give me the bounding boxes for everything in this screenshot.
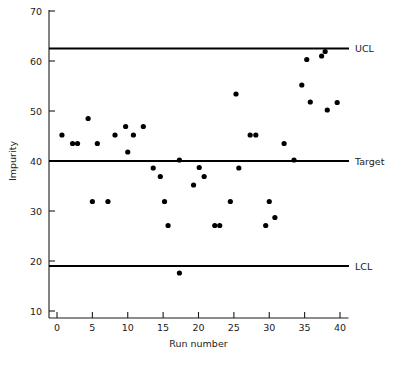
data-point-0-15 (165, 223, 170, 228)
data-point-0-29 (267, 199, 272, 204)
data-point-0-19 (197, 165, 202, 170)
x-axis-title: Run number (169, 338, 227, 349)
y-tick-label-50: 50 (30, 106, 42, 117)
reference-label-ucl: UCL (355, 43, 375, 54)
data-point-0-5 (95, 141, 100, 146)
data-point-0-11 (141, 124, 146, 129)
data-point-0-14 (162, 199, 167, 204)
y-tick-label-20: 20 (30, 256, 42, 267)
y-tick-label-10: 10 (30, 306, 42, 317)
data-point-0-2 (75, 141, 80, 146)
control-chart: 102030405060700510152025303540Run number… (0, 0, 401, 372)
y-axis-title: Impurity (7, 141, 18, 181)
y-tick-label-60: 60 (30, 56, 42, 67)
data-point-0-25 (236, 165, 241, 170)
x-tick-label-25: 25 (228, 322, 240, 333)
x-tick-label-40: 40 (334, 322, 346, 333)
data-point-0-34 (304, 57, 309, 62)
reference-label-lcl: LCL (355, 261, 373, 272)
data-point-0-20 (202, 174, 207, 179)
x-tick-label-35: 35 (299, 322, 311, 333)
x-tick-label-30: 30 (263, 322, 275, 333)
reference-label-target: Target (354, 156, 385, 167)
data-point-0-35 (308, 99, 313, 104)
data-point-0-7 (112, 132, 117, 137)
data-point-0-37 (323, 49, 328, 54)
data-point-0-16 (177, 157, 182, 162)
data-point-0-38 (325, 107, 330, 112)
data-point-0-31 (282, 141, 287, 146)
x-tick-label-10: 10 (122, 322, 134, 333)
data-point-0-24 (233, 91, 238, 96)
data-point-0-10 (131, 132, 136, 137)
x-tick-label-5: 5 (89, 322, 95, 333)
data-point-0-1 (70, 141, 75, 146)
data-point-0-26 (248, 132, 253, 137)
x-tick-label-15: 15 (157, 322, 169, 333)
data-point-0-17 (177, 270, 182, 275)
data-point-0-6 (105, 199, 110, 204)
data-point-0-3 (86, 116, 91, 121)
data-point-0-13 (158, 174, 163, 179)
data-point-0-12 (151, 165, 156, 170)
data-point-0-39 (335, 100, 340, 105)
data-point-0-22 (217, 223, 222, 228)
y-tick-label-30: 30 (30, 206, 42, 217)
data-point-0-4 (90, 199, 95, 204)
chart-canvas: 102030405060700510152025303540Run number… (0, 0, 401, 372)
data-point-0-8 (123, 124, 128, 129)
data-point-0-21 (212, 223, 217, 228)
data-point-0-33 (299, 82, 304, 87)
data-point-0-30 (272, 215, 277, 220)
y-tick-label-70: 70 (30, 6, 42, 17)
data-point-0-36 (319, 53, 324, 58)
x-tick-label-20: 20 (192, 322, 204, 333)
data-point-0-28 (263, 223, 268, 228)
data-point-0-32 (291, 157, 296, 162)
x-tick-label-0: 0 (54, 322, 60, 333)
data-point-0-18 (191, 182, 196, 187)
data-point-0-23 (228, 199, 233, 204)
y-tick-label-40: 40 (30, 156, 42, 167)
data-point-0-9 (125, 149, 130, 154)
data-point-0-27 (253, 132, 258, 137)
data-point-0-0 (59, 132, 64, 137)
